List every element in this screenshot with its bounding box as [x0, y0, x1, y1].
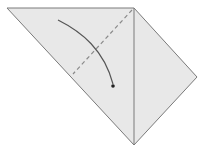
arrowhead-icon	[111, 84, 115, 88]
paper-shape	[7, 8, 197, 145]
origami-diagram	[0, 0, 208, 159]
